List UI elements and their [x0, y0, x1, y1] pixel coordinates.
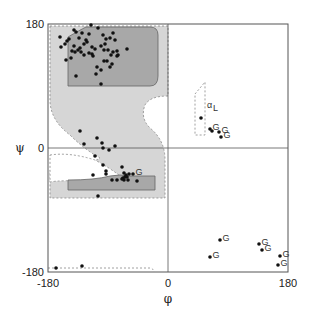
data-point: [110, 62, 114, 66]
data-point: [219, 135, 223, 139]
data-point: [257, 242, 261, 246]
data-point: [79, 50, 83, 54]
data-point: [72, 44, 76, 48]
data-point: [93, 154, 97, 158]
data-point: [91, 54, 95, 58]
data-point: [74, 74, 78, 78]
data-point: [131, 172, 135, 176]
data-point: [208, 255, 212, 259]
data-point: [109, 53, 113, 57]
data-point: [96, 194, 100, 198]
data-point: [54, 266, 58, 270]
data-point: [74, 30, 78, 34]
data-point: [103, 42, 107, 46]
data-point: [199, 116, 203, 120]
data-point: [59, 45, 63, 49]
data-point: [91, 173, 95, 177]
data-point: [120, 177, 124, 181]
data-point: [127, 172, 131, 176]
data-point: [82, 42, 86, 46]
data-point: [80, 264, 84, 268]
data-point: [105, 59, 109, 63]
data-point: [99, 82, 103, 86]
data-point: [135, 179, 139, 183]
data-point: [116, 53, 120, 57]
y-tick-0: 0: [38, 142, 44, 154]
data-point: [73, 50, 77, 54]
glycine-label: G: [223, 233, 230, 243]
data-point: [111, 50, 115, 54]
data-point: [82, 142, 86, 146]
data-point: [95, 136, 99, 140]
data-point: [120, 165, 124, 169]
data-point: [260, 248, 264, 252]
data-point: [82, 53, 86, 57]
data-point: [115, 178, 119, 182]
data-point: [63, 42, 67, 46]
glycine-label: G: [213, 250, 220, 260]
y-tick-180: 180: [26, 18, 44, 30]
data-point: [276, 263, 280, 267]
data-point: [77, 36, 81, 40]
data-point: [89, 23, 93, 27]
data-point: [58, 35, 62, 39]
data-point: [102, 48, 106, 52]
data-point: [111, 31, 115, 35]
data-point: [100, 141, 104, 145]
data-point: [113, 38, 117, 42]
data-point: [85, 40, 89, 44]
data-point: [95, 65, 99, 69]
data-point: [125, 47, 129, 51]
alpha-l-region: [195, 82, 205, 135]
data-point: [93, 47, 97, 51]
data-point: [101, 163, 105, 167]
alpha-l-label: α: [207, 100, 212, 110]
data-point: [90, 45, 94, 49]
glycine-label: G: [281, 258, 288, 268]
data-point: [218, 238, 222, 242]
glycine-label: G: [213, 122, 220, 132]
glycine-label: G: [136, 167, 143, 177]
data-point: [80, 31, 84, 35]
glycine-label: G: [224, 130, 231, 140]
data-point: [87, 32, 91, 36]
data-point: [113, 144, 117, 148]
x-tick-0: 0: [165, 277, 171, 289]
ramachandran-plot: 180 0 -180 -180 0 180 ψ φ α L GGGGGGGGGG: [0, 0, 309, 318]
data-point: [94, 72, 98, 76]
allowed-region-bottom: [48, 268, 154, 272]
data-point: [101, 33, 105, 37]
data-point: [69, 56, 73, 60]
data-point: [108, 36, 112, 40]
data-point: [78, 129, 82, 133]
data-point: [65, 39, 69, 43]
y-axis-label: ψ: [15, 141, 24, 155]
data-point: [64, 58, 68, 62]
glycine-label: G: [265, 243, 272, 253]
data-point: [107, 148, 111, 152]
x-tick-180: 180: [279, 277, 297, 289]
data-point: [99, 68, 103, 72]
data-point: [106, 48, 110, 52]
alpha-l-subscript: L: [213, 103, 218, 113]
data-point: [126, 178, 130, 182]
core-region-beta: [68, 27, 158, 86]
data-point: [115, 49, 119, 53]
x-axis-label: φ: [164, 292, 172, 306]
data-point: [99, 44, 103, 48]
data-point: [76, 48, 80, 52]
data-point: [96, 26, 100, 30]
data-point: [101, 146, 105, 150]
x-tick-neg180: -180: [37, 277, 59, 289]
data-point: [108, 65, 112, 69]
data-point: [104, 37, 108, 41]
data-point: [104, 172, 108, 176]
data-point: [110, 178, 114, 182]
